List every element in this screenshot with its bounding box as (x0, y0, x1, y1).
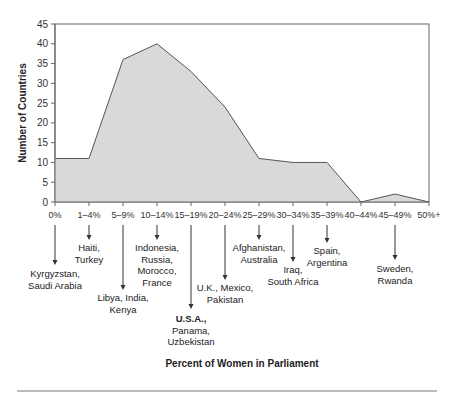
y-axis: 051015202530354045 (37, 19, 55, 208)
annotation-45-49-: Sweden,Rwanda (377, 225, 414, 286)
annotation-text: Saudi Arabia (28, 280, 83, 291)
y-tick-label: 25 (37, 98, 49, 109)
annotation-text: Argentina (307, 257, 348, 268)
annotation-text: Spain, (314, 245, 341, 256)
x-tick-label: 10–14% (140, 210, 173, 220)
arrow-down-icon (155, 235, 160, 240)
x-axis-title: Percent of Women in Parliament (165, 358, 319, 369)
arrow-down-icon (291, 257, 296, 262)
annotation-text: Libya, India, (97, 292, 148, 303)
annotation-text: U.S.A., (176, 313, 207, 324)
x-tick-label: 25–29% (242, 210, 275, 220)
y-tick-label: 10 (37, 157, 49, 168)
y-axis-title: Number of Countries (17, 63, 28, 163)
annotation-text: Uzbekistan (168, 336, 215, 347)
annotation-text: Panama, (172, 325, 210, 336)
x-tick-label: 1–4% (77, 210, 100, 220)
x-tick-label: 40–44% (344, 210, 377, 220)
arrow-down-icon (257, 235, 262, 240)
x-tick-label: 5–9% (111, 210, 134, 220)
x-axis: 0%1–4%5–9%10–14%15–19%20–24%25–29%30–34%… (48, 202, 440, 220)
annotation-text: Iraq, (283, 264, 302, 275)
annotation-text: Kyrgyzstan, (30, 268, 80, 279)
annotation-text: Pakistan (207, 294, 243, 305)
arrow-down-icon (121, 285, 126, 290)
arrow-down-icon (223, 275, 228, 280)
annotation-text: France (142, 277, 172, 288)
x-tick-label: 15–19% (174, 210, 207, 220)
annotation-35-39-: Spain,Argentina (307, 225, 348, 268)
arrow-down-icon (393, 255, 398, 260)
annotation-text: South Africa (267, 276, 319, 287)
arrow-down-icon (325, 238, 330, 243)
arrow-down-icon (87, 235, 92, 240)
y-tick-label: 35 (37, 58, 49, 69)
annotation-1-4-: Haiti,Turkey (75, 225, 104, 265)
annotation-text: Turkey (75, 254, 104, 265)
annotation-text: Morocco, (137, 265, 176, 276)
annotation-25-29-: Afghanistan,Australia (233, 225, 286, 265)
annotation-text: Kenya (110, 304, 138, 315)
x-tick-label: 35–39% (310, 210, 343, 220)
y-tick-label: 15 (37, 137, 49, 148)
x-tick-label: 50%+ (417, 210, 440, 220)
y-tick-label: 30 (37, 78, 49, 89)
arrow-down-icon (189, 304, 194, 309)
x-tick-label: 45–49% (378, 210, 411, 220)
y-tick-label: 20 (37, 117, 49, 128)
x-tick-label: 20–24% (208, 210, 241, 220)
x-tick-label: 30–34% (276, 210, 309, 220)
annotation-text: Sweden, (377, 263, 414, 274)
y-tick-label: 40 (37, 38, 49, 49)
y-tick-label: 5 (42, 177, 48, 188)
annotation-10-14-: Indonesia,Russia,Morocco,France (135, 225, 179, 288)
women-in-parliament-chart: 051015202530354045 0%1–4%5–9%10–14%15–19… (0, 0, 456, 398)
x-tick-label: 0% (48, 210, 61, 220)
annotation-20-24-: U.K., Mexico,Pakistan (197, 225, 254, 305)
annotation-text: U.K., Mexico, (197, 282, 254, 293)
country-annotations: Kyrgyzstan,Saudi ArabiaHaiti,TurkeyLibya… (28, 225, 413, 347)
annotation-text: Australia (241, 254, 279, 265)
annotation-text: Haiti, (78, 242, 100, 253)
annotation-text: Rwanda (378, 275, 414, 286)
annotation-text: Russia, (141, 254, 173, 265)
arrow-down-icon (53, 260, 58, 265)
annotation-text: Afghanistan, (233, 242, 286, 253)
annotation-text: Indonesia, (135, 242, 179, 253)
y-tick-label: 45 (37, 19, 49, 30)
y-tick-label: 0 (42, 197, 48, 208)
